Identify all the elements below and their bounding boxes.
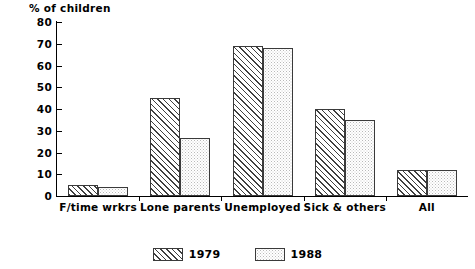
x-axis-label-f-time-wrkrs: F/time wrkrs: [57, 201, 139, 213]
chart-axis-title: % of children: [29, 2, 111, 14]
legend-label-1988: 1988: [291, 248, 323, 261]
bar-chart: % of children 01020304050607080 F/time w…: [0, 0, 475, 269]
x-axis-label-lone-parents: Lone parents: [139, 201, 221, 213]
y-axis-tick: [57, 196, 62, 197]
bar-1979-f-time-wrkrs: [68, 185, 98, 196]
x-axis-label-all: All: [386, 201, 468, 213]
bar-1979-sick-others: [315, 109, 345, 196]
x-axis-label-unemployed: Unemployed: [221, 201, 303, 213]
legend-item-1988[interactable]: 1988: [255, 248, 323, 261]
bar-1979-all: [397, 170, 427, 196]
plot-area: [57, 22, 468, 196]
bar-1988-unemployed: [263, 48, 293, 196]
bar-1988-f-time-wrkrs: [98, 187, 128, 196]
y-axis-tick-label: 30: [22, 126, 52, 136]
bar-1979-unemployed: [233, 46, 263, 196]
bar-1988-all: [427, 170, 457, 196]
y-axis-tick-label: 0: [22, 191, 52, 201]
bar-1988-lone-parents: [180, 138, 210, 196]
y-axis-tick-label: 10: [22, 169, 52, 179]
y-axis-tick-label: 80: [22, 17, 52, 27]
bar-1979-lone-parents: [150, 98, 180, 196]
bar-1988-sick-others: [345, 120, 375, 196]
y-axis-tick-label: 40: [22, 104, 52, 114]
y-axis-tick-label: 60: [22, 61, 52, 71]
y-axis-tick-label: 50: [22, 82, 52, 92]
chart-legend: 19791988: [0, 244, 475, 264]
y-axis-tick-label: 20: [22, 148, 52, 158]
legend-item-1979[interactable]: 1979: [153, 248, 221, 261]
legend-swatch-1979: [153, 248, 183, 261]
x-axis-line: [56, 196, 468, 197]
y-axis-tick-label: 70: [22, 39, 52, 49]
x-axis-label-sick-others: Sick & others: [304, 201, 386, 213]
legend-swatch-1988: [255, 248, 285, 261]
legend-label-1979: 1979: [189, 248, 221, 261]
